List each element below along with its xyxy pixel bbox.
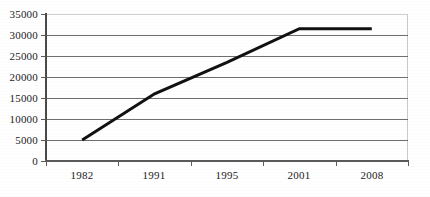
y-tick-label-5000: 5000: [0, 135, 38, 146]
x-tick-label-1991: 1991: [124, 170, 184, 181]
y-tick-label-30000: 30000: [0, 30, 38, 41]
gridline-20000: [46, 77, 408, 78]
y-tick-label-35000: 35000: [0, 9, 38, 20]
y-tick-35000: [41, 14, 46, 15]
x-tick-label-1995: 1995: [197, 170, 257, 181]
x-tick-5: [408, 161, 409, 166]
y-tick-label-0: 0: [0, 156, 38, 167]
gridline-30000: [46, 35, 408, 36]
gridline-10000: [46, 119, 408, 120]
x-tick-0: [46, 161, 47, 166]
y-tick-15000: [41, 98, 46, 99]
x-tick-4: [336, 161, 337, 166]
plot-area: [46, 14, 408, 161]
gridline-25000: [46, 56, 408, 57]
gridline-35000: [46, 14, 408, 15]
y-tick-label-15000: 15000: [0, 93, 38, 104]
gridline-5000: [46, 140, 408, 141]
y-tick-20000: [41, 77, 46, 78]
x-tick-3: [263, 161, 264, 166]
y-tick-label-10000: 10000: [0, 114, 38, 125]
y-tick-10000: [41, 119, 46, 120]
y-tick-label-25000: 25000: [0, 51, 38, 62]
x-tick-label-2001: 2001: [269, 170, 329, 181]
y-tick-30000: [41, 35, 46, 36]
x-tick-label-2008: 2008: [342, 170, 402, 181]
x-axis-line: [45, 160, 409, 162]
line-chart: 35000 30000 25000 20000 15000 10000 5000…: [0, 0, 430, 197]
y-tick-label-20000: 20000: [0, 72, 38, 83]
x-tick-2: [191, 161, 192, 166]
y-tick-25000: [41, 56, 46, 57]
y-tick-5000: [41, 140, 46, 141]
x-tick-1: [118, 161, 119, 166]
gridline-15000: [46, 98, 408, 99]
x-tick-label-1982: 1982: [52, 170, 112, 181]
